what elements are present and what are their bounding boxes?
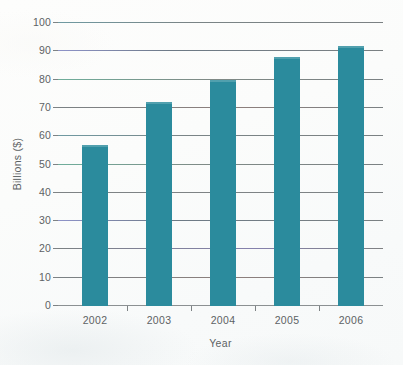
ytick-label-50: 50	[39, 158, 51, 170]
ytick-mark-100	[53, 22, 58, 23]
bar-top-cap	[210, 80, 236, 82]
ytick-label-90: 90	[39, 44, 51, 56]
ytick-label-10: 10	[39, 271, 51, 283]
ytick-mark-60	[53, 135, 58, 136]
xtick-mark-4	[319, 306, 320, 311]
xtick-label-2004: 2004	[211, 314, 236, 326]
bar-2005[interactable]	[274, 57, 300, 306]
bar-2002[interactable]	[82, 145, 108, 306]
x-axis-title: Year	[58, 337, 383, 349]
ytick-label-70: 70	[39, 101, 51, 113]
xtick-label-2002: 2002	[83, 314, 108, 326]
xtick-mark-1	[127, 306, 128, 311]
chart-page: 0 10 20 30 40 50	[0, 0, 403, 365]
ytick-mark-20	[53, 248, 58, 249]
gridline-90: 90	[58, 50, 383, 51]
ytick-mark-30	[53, 220, 58, 221]
xtick-mark-2	[191, 306, 192, 311]
y-axis-title: Billions ($)	[11, 138, 23, 191]
ytick-label-100: 100	[33, 16, 51, 28]
ytick-label-20: 20	[39, 242, 51, 254]
bar-chart: 0 10 20 30 40 50	[0, 0, 403, 365]
ytick-label-80: 80	[39, 73, 51, 85]
ytick-mark-90	[53, 50, 58, 51]
ytick-mark-0	[53, 305, 58, 306]
bar-top-cap	[82, 145, 108, 147]
ytick-mark-10	[53, 277, 58, 278]
bar-2003[interactable]	[146, 102, 172, 306]
ytick-label-0: 0	[45, 299, 51, 311]
xtick-label-2003: 2003	[147, 314, 172, 326]
bar-top-cap	[338, 46, 364, 48]
xtick-label-2005: 2005	[275, 314, 300, 326]
ytick-mark-40	[53, 192, 58, 193]
bar-top-cap	[146, 102, 172, 104]
ytick-mark-70	[53, 107, 58, 108]
bar-2004[interactable]	[210, 80, 236, 306]
gridline-100: 100	[58, 22, 383, 23]
xtick-label-2006: 2006	[339, 314, 364, 326]
bar-top-cap	[274, 57, 300, 59]
ytick-label-40: 40	[39, 186, 51, 198]
ytick-mark-50	[53, 164, 58, 165]
plot-area: 0 10 20 30 40 50	[58, 23, 383, 306]
ytick-label-30: 30	[39, 214, 51, 226]
ytick-label-60: 60	[39, 129, 51, 141]
xtick-mark-3	[255, 306, 256, 311]
bar-2006[interactable]	[338, 46, 364, 306]
ytick-mark-80	[53, 79, 58, 80]
